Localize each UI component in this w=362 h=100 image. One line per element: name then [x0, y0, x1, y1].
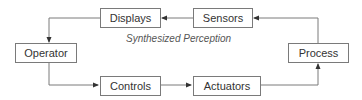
operator-node: Operator	[15, 43, 77, 63]
controls-node: Controls	[100, 76, 161, 96]
synthesized-perception-caption: Synthesized Perception	[126, 33, 231, 44]
sensors-node: Sensors	[193, 8, 253, 28]
displays-node: Displays	[100, 8, 161, 28]
process-node: Process	[288, 43, 349, 63]
actuators-node: Actuators	[193, 76, 261, 96]
